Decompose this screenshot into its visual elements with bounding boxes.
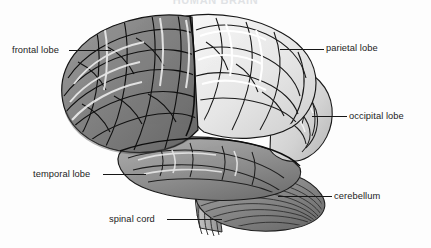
frontal-lobe-structure xyxy=(62,15,200,153)
leader-line-occipital-lobe xyxy=(312,116,347,117)
leader-line-spinal-cord xyxy=(167,219,222,220)
label-spinal-cord: spinal cord xyxy=(109,215,155,224)
leader-line-cerebellum xyxy=(278,196,332,197)
brain-diagram-figure: HUMAN BRAIN xyxy=(0,0,431,248)
label-parietal-lobe: parietal lobe xyxy=(326,44,378,53)
label-cerebellum: cerebellum xyxy=(334,192,380,201)
parietal-lobe-structure xyxy=(186,14,316,138)
brain-illustration xyxy=(0,0,431,248)
label-temporal-lobe: temporal lobe xyxy=(33,170,90,179)
label-occipital-lobe: occipital lobe xyxy=(349,112,404,121)
leader-line-parietal-lobe xyxy=(280,49,324,50)
leader-line-frontal-lobe xyxy=(69,50,111,51)
leader-line-temporal-lobe xyxy=(103,174,146,175)
label-frontal-lobe: frontal lobe xyxy=(12,46,59,55)
